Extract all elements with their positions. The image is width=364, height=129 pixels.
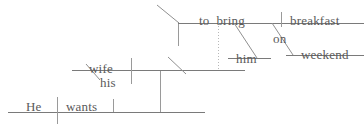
word-possessive: his <box>100 76 116 89</box>
word-prep-object: weekend <box>301 48 349 61</box>
diagram-stroke-pedestal-slant <box>168 57 186 74</box>
word-subject: He <box>26 100 42 113</box>
word-inf-subject: wife <box>89 62 113 75</box>
word-direct-object: breakfast <box>290 14 339 27</box>
word-preposition: on <box>273 32 286 45</box>
sentence-diagram: Hewantswifehisto bringhimbreakfastonweek… <box>0 0 364 129</box>
word-infinitive: to bring <box>199 14 245 27</box>
word-indirect-object: him <box>236 52 257 65</box>
diagram-stroke-infinitive-corner <box>157 5 179 23</box>
word-verb: wants <box>66 100 97 113</box>
